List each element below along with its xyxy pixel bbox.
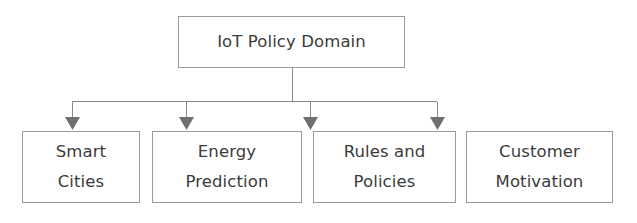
child-node-customer-motivation[interactable]: Customer Motivation — [466, 131, 613, 203]
arrowhead-icon-1 — [179, 117, 194, 130]
child-node-label: Customer Motivation — [496, 137, 584, 197]
child-node-smart-cities[interactable]: Smart Cities — [22, 131, 140, 203]
child-node-label: Smart Cities — [56, 137, 106, 197]
child-node-energy-prediction[interactable]: Energy Prediction — [152, 131, 302, 203]
child-node-label: Energy Prediction — [186, 137, 269, 197]
root-node[interactable]: IoT Policy Domain — [178, 16, 405, 68]
arrowhead-icon-0 — [65, 117, 80, 130]
arrowhead-icon-3 — [430, 117, 445, 130]
child-node-label: Rules and Policies — [344, 137, 426, 197]
child-node-rules-and-policies[interactable]: Rules and Policies — [313, 131, 456, 203]
diagram-canvas: IoT Policy Domain Smart Cities Energy Pr… — [0, 0, 637, 223]
arrowhead-icon-2 — [303, 117, 318, 130]
root-node-label: IoT Policy Domain — [217, 32, 366, 52]
